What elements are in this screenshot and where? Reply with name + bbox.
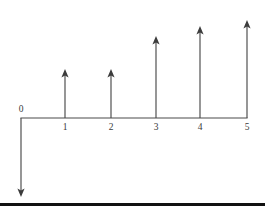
axis-tick-label-5: 5 xyxy=(245,122,250,132)
impulse-stem-4 xyxy=(196,26,203,118)
axis-tick-label-2: 2 xyxy=(109,122,114,132)
axis-tick-label-4: 4 xyxy=(198,122,203,132)
axis-tick-label-3: 3 xyxy=(154,122,159,132)
impulse-stem-5 xyxy=(243,20,250,118)
impulse-stem-2 xyxy=(107,69,114,118)
impulse-plot: 0 1 2 3 4 5 xyxy=(0,0,265,215)
figure-root: 0 1 2 3 4 5 xyxy=(0,0,265,215)
impulse-stem-0 xyxy=(17,118,24,197)
axis-label-origin: 0 xyxy=(19,104,24,114)
impulse-stem-3 xyxy=(152,36,159,118)
bottom-divider-rule xyxy=(0,203,265,206)
axis-tick-label-1: 1 xyxy=(63,122,68,132)
impulse-stem-1 xyxy=(61,69,68,118)
